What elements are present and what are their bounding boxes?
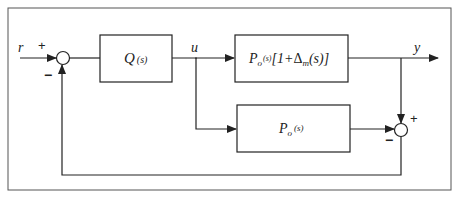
plant-delta-arg: (s) [309, 51, 324, 67]
control-branch-point [195, 57, 197, 59]
plant-one-plus: 1+ [277, 51, 293, 66]
control-branch-to-model [196, 58, 236, 129]
control-signal-label: u [191, 40, 198, 55]
model-arg: (s) [294, 123, 304, 133]
error-sum-minus-sign: − [385, 132, 393, 148]
plant-subscript: o [258, 58, 263, 68]
controller-arg: (s) [137, 54, 148, 66]
controller-name: Q [124, 50, 135, 66]
plant-bracket-close: ] [323, 51, 329, 66]
output-label: y [412, 40, 421, 55]
input-sum-plus-sign: + [38, 38, 46, 53]
outer-frame [8, 8, 451, 190]
input-summing-junction [57, 52, 70, 65]
error-sum-plus-sign: + [410, 111, 418, 126]
error-summing-junction [395, 124, 408, 137]
plant-name: P [248, 51, 258, 66]
model-subscript: o [288, 128, 293, 138]
plant-delta: Δ [293, 51, 302, 66]
block-diagram: r + − Q(s) u Po(s)[1+Δm(s)] y Po(s) + − [0, 0, 457, 199]
reference-label: r [18, 40, 24, 55]
input-sum-minus-sign: − [44, 67, 52, 83]
model-name: P [278, 121, 288, 136]
plant-arg: (s) [263, 54, 272, 63]
